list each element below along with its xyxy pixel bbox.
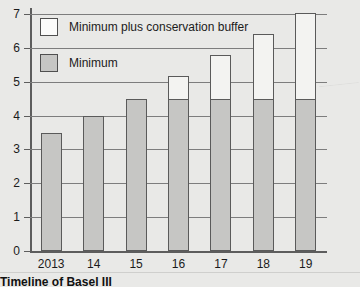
gridline-0	[30, 251, 327, 253]
x-tick-label: 17	[198, 258, 244, 270]
bar-segment-minimum	[126, 99, 147, 251]
x-tick-label: 14	[71, 258, 117, 270]
bar-segment-minimum	[295, 99, 316, 251]
bar-segment-buffer	[210, 55, 231, 99]
x-tick-label: 18	[240, 258, 286, 270]
x-tick-label: 15	[113, 258, 159, 270]
x-tick-label: 16	[156, 258, 202, 270]
chart-caption: Timeline of Basel III	[0, 276, 112, 287]
y-tick-label: 4	[0, 110, 20, 122]
legend-label-buffer: Minimum plus conservation buffer	[69, 21, 248, 33]
bar-segment-minimum	[41, 133, 62, 252]
y-tick-label: 0	[0, 245, 20, 257]
bar-segment-minimum	[83, 116, 104, 251]
bar-segment-buffer	[253, 34, 274, 99]
legend-label-minimum: Minimum	[69, 57, 118, 69]
bar-segment-minimum	[210, 99, 231, 251]
y-tick-label: 6	[0, 42, 20, 54]
y-tick-label: 5	[0, 76, 20, 88]
legend-item-minimum: Minimum	[40, 54, 118, 72]
x-tick-label: 19	[283, 258, 329, 270]
bar-segment-minimum	[168, 99, 189, 251]
x-tick-label: 2013	[28, 258, 74, 270]
y-tick-label: 2	[0, 177, 20, 189]
y-tick-label: 1	[0, 211, 20, 223]
chart-container: 01234567 2013141516171819 Minimum plus c…	[0, 0, 360, 287]
bar-segment-buffer	[295, 13, 316, 99]
y-tick-label: 7	[0, 8, 20, 20]
bar-segment-buffer	[168, 76, 189, 98]
y-tick-0	[24, 251, 30, 252]
y-tick-label: 3	[0, 143, 20, 155]
legend-swatch-minimum-icon	[40, 54, 58, 72]
caption-divider	[0, 272, 360, 273]
plot-area	[30, 14, 327, 251]
legend-item-buffer: Minimum plus conservation buffer	[40, 18, 248, 36]
bar-segment-minimum	[253, 99, 274, 251]
legend-swatch-buffer-icon	[40, 18, 58, 36]
